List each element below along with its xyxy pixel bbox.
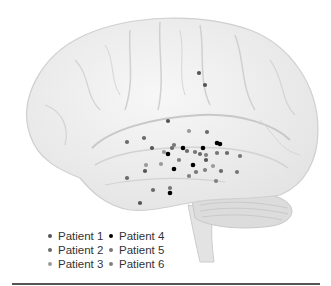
dot-icon <box>109 262 113 266</box>
electrode-dot-patient-6 <box>187 174 191 178</box>
electrode-dot-patient-3 <box>159 162 163 166</box>
electrode-dot-patient-4 <box>218 142 223 147</box>
electrode-dot-patient-1 <box>138 201 142 205</box>
electrode-dot-patient-5 <box>194 170 198 174</box>
electrode-dot-patient-2 <box>198 152 202 156</box>
electrode-dot-patient-1 <box>166 119 170 123</box>
electrode-dot-patient-5 <box>172 143 176 147</box>
electrode-dot-patient-5 <box>193 150 197 154</box>
electrode-dot-patient-1 <box>150 146 154 150</box>
legend-item-patient-2: Patient 2 <box>48 243 109 257</box>
electrode-dot-patient-5 <box>168 186 172 190</box>
electrode-dot-patient-1 <box>143 169 147 173</box>
electrode-dot-patient-2 <box>151 188 155 192</box>
electrode-dot-patient-5 <box>238 154 242 158</box>
electrode-dot-patient-4 <box>172 167 177 172</box>
electrode-dot-patient-4 <box>181 146 186 151</box>
electrode-dot-patient-2 <box>225 151 229 155</box>
legend-item-patient-6: Patient 6 <box>109 257 169 271</box>
electrode-dot-patient-5 <box>215 151 219 155</box>
legend-item-patient-5: Patient 5 <box>109 243 169 257</box>
electrode-dot-patient-5 <box>235 170 239 174</box>
electrode-dot-patient-6 <box>177 158 181 162</box>
electrode-dot-patient-3 <box>187 129 191 133</box>
electrode-dot-patient-1 <box>203 83 207 87</box>
electrode-dot-patient-2 <box>205 130 209 134</box>
electrode-dot-patient-3 <box>162 150 166 154</box>
electrode-dot-patient-4 <box>191 163 196 168</box>
electrode-dot-patient-2 <box>142 136 146 140</box>
electrode-dot-patient-4 <box>166 152 171 157</box>
electrode-dot-patient-1 <box>197 71 201 75</box>
legend: Patient 1 Patient 4 Patient 2 Patient 5 … <box>48 229 169 271</box>
electrode-dot-patient-1 <box>204 158 208 162</box>
electrode-dot-patient-6 <box>204 153 208 157</box>
electrode-dot-patient-2 <box>125 140 129 144</box>
legend-item-patient-4: Patient 4 <box>109 229 169 243</box>
electrode-dot-patient-4 <box>201 146 206 151</box>
divider-line <box>12 283 320 285</box>
electrode-dot-patient-2 <box>219 169 223 173</box>
dot-icon <box>48 234 52 238</box>
electrode-dot-patient-4 <box>168 191 173 196</box>
electrode-dot-patient-3 <box>211 164 215 168</box>
dot-icon <box>109 234 113 238</box>
dot-icon <box>48 262 52 266</box>
electrode-dot-patient-3 <box>144 163 148 167</box>
cerebrum <box>27 18 318 210</box>
electrode-dot-patient-2 <box>185 149 189 153</box>
legend-item-patient-1: Patient 1 <box>48 229 109 243</box>
dot-icon <box>48 248 52 252</box>
electrode-dot-patient-6 <box>214 179 218 183</box>
electrode-dot-patient-6 <box>203 168 207 172</box>
dot-icon <box>109 248 113 252</box>
legend-item-patient-3: Patient 3 <box>48 257 109 271</box>
electrode-dot-patient-2 <box>125 176 129 180</box>
